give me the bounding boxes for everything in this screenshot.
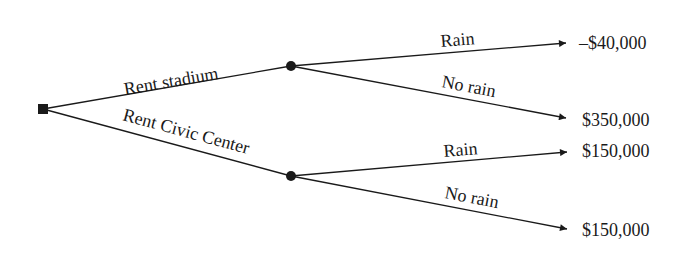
branch-label-rent-stadium: Rent stadium bbox=[122, 63, 220, 99]
payoff-civic-no-rain: $150,000 bbox=[582, 220, 650, 240]
outcome-civic-rain-arrow bbox=[291, 152, 567, 176]
outcome-label-civic-no-rain: No rain bbox=[443, 182, 500, 212]
outcome-label-civic-rain: Rain bbox=[443, 138, 479, 161]
branch-label-rent-civic-center: Rent Civic Center bbox=[121, 105, 252, 158]
payoff-civic-rain: $150,000 bbox=[582, 141, 650, 161]
outcome-stadium-no-rain-arrow bbox=[291, 66, 566, 118]
chance-node-stadium-circle-icon bbox=[286, 61, 296, 71]
outcome-label-stadium-no-rain: No rain bbox=[440, 71, 497, 101]
payoff-stadium-rain: –$40,000 bbox=[578, 33, 647, 53]
outcome-civic-no-rain-arrow bbox=[291, 176, 567, 229]
outcome-stadium-rain-arrow bbox=[291, 43, 566, 66]
payoff-stadium-no-rain: $350,000 bbox=[582, 110, 650, 130]
decision-node-square-icon bbox=[38, 104, 48, 114]
chance-node-civic-circle-icon bbox=[286, 171, 296, 181]
decision-tree-diagram: Rent stadium Rent Civic Center Rain No r… bbox=[0, 0, 693, 259]
outcome-label-stadium-rain: Rain bbox=[440, 28, 476, 51]
